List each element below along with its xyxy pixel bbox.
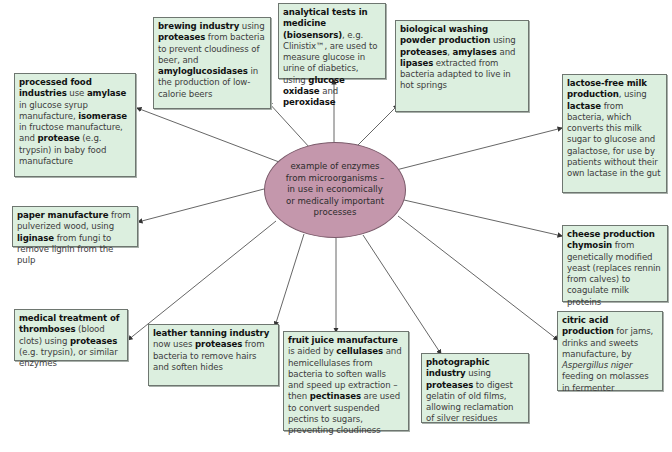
box-text: using: [466, 368, 491, 378]
enzyme-term: lactase: [567, 101, 601, 111]
enzyme-term: proteases: [426, 380, 473, 390]
box-medical-treatment: medical treatment of thromboses (blood c…: [14, 309, 128, 361]
enzyme-term: cellulases: [336, 346, 383, 356]
enzyme-term: fruit juice manufacture: [288, 335, 398, 345]
center-line: from microorganisms –: [286, 173, 384, 185]
central-ellipse: example of enzymes from microorganisms –…: [264, 142, 406, 238]
enzyme-term: proteases: [70, 336, 117, 346]
box-text: , using: [619, 89, 647, 99]
enzyme-term: proteases: [158, 32, 205, 42]
box-text: is aided by: [288, 346, 336, 356]
enzyme-term: paper manufacture: [17, 210, 108, 220]
box-washing-powder: biological washing powder production usi…: [395, 20, 529, 112]
enzyme-term: amyloglucosidases: [158, 66, 248, 76]
enzyme-term: biological washing powder production: [400, 24, 490, 45]
box-fruit-juice: fruit juice manufacture is aided by cell…: [283, 331, 409, 431]
enzyme-term: peroxidase: [283, 97, 336, 107]
box-leather-tanning: leather tanning industry now uses protea…: [148, 324, 279, 386]
box-paper: paper manufacture from pulverized wood, …: [12, 206, 138, 247]
center-line: example of enzymes: [286, 161, 384, 173]
box-processed-food: processed food industries use amylase in…: [14, 73, 136, 177]
center-line: processes: [286, 207, 384, 219]
box-text: using: [490, 35, 515, 45]
box-citric-acid: citric acid production for jams, drinks …: [557, 311, 663, 391]
enzyme-term: amylase: [87, 88, 126, 98]
center-line: or medically important: [286, 196, 384, 208]
box-photographic: photographic industry using proteases to…: [421, 353, 529, 423]
enzyme-term: proteases: [195, 339, 242, 349]
box-text: feeding on molasses in fermenter: [562, 371, 649, 392]
enzyme-term: citric acid production: [562, 315, 614, 336]
enzyme-term: cheese production chymosin: [567, 229, 655, 250]
box-text: using: [239, 21, 264, 31]
enzyme-term: lipases: [400, 58, 433, 68]
enzyme-term: leather tanning industry: [153, 328, 269, 338]
enzyme-term: protease: [38, 133, 80, 143]
box-text: use: [67, 88, 87, 98]
box-text: and: [320, 86, 339, 96]
center-line: in use in economically: [286, 184, 384, 196]
box-text: Aspergillus niger: [562, 360, 632, 370]
enzyme-term: isomerase: [78, 111, 127, 121]
enzyme-term: liginase: [17, 233, 54, 243]
box-lactose-free-milk: lactose-free milk production, using lact…: [562, 74, 667, 193]
box-analytical-tests: analytical tests in medicine (biosensors…: [278, 3, 386, 79]
enzyme-term: amylases: [452, 47, 496, 57]
box-text: from bacteria, which converts this milk …: [567, 101, 660, 179]
box-brewing: brewing industry using proteases from ba…: [153, 17, 271, 109]
enzyme-term: proteases: [400, 47, 447, 57]
box-text: now uses: [153, 339, 195, 349]
box-text: and: [497, 47, 516, 57]
enzyme-term: pectinases: [310, 391, 361, 401]
box-cheese: cheese production chymosin from genetica…: [562, 225, 668, 302]
enzyme-term: brewing industry: [158, 21, 239, 31]
